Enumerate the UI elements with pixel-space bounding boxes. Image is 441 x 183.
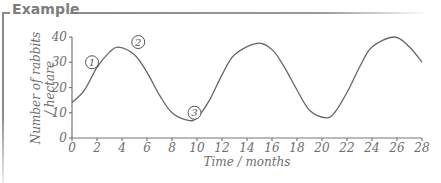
x-tick-label: 8 [168, 141, 176, 155]
annotation-marker: 1 [86, 56, 99, 69]
x-tick-label: 22 [338, 141, 354, 155]
x-axis-title: Time / months [203, 155, 290, 169]
population-curve [72, 37, 422, 121]
x-tick-label: 14 [239, 141, 254, 155]
x-tick-label: 16 [264, 141, 280, 155]
x-tick-label: 20 [313, 141, 330, 155]
x-tick-label: 18 [289, 141, 305, 155]
x-tick-label: 12 [214, 141, 229, 155]
rabbit-population-chart: 010203040 0246810121416182022242628 123 … [0, 0, 441, 183]
x-axis: 0246810121416182022242628 [68, 138, 430, 155]
x-tick-label: 0 [68, 141, 76, 155]
x-tick-label: 26 [388, 141, 405, 155]
svg-text:2: 2 [134, 37, 141, 48]
x-tick-label: 28 [413, 141, 430, 155]
y-axis-title-line2: / hectare [43, 61, 57, 116]
svg-text:3: 3 [191, 107, 197, 118]
y-tick-label: 40 [51, 30, 68, 44]
svg-text:1: 1 [89, 57, 95, 68]
y-tick-label: 0 [59, 131, 67, 145]
x-tick-label: 24 [363, 141, 379, 155]
annotations: 123 [86, 36, 202, 120]
x-tick-label: 10 [189, 141, 205, 155]
annotation-marker: 2 [132, 36, 145, 49]
annotation-marker: 3 [188, 106, 201, 119]
x-tick-label: 4 [117, 141, 126, 155]
x-tick-label: 6 [143, 141, 151, 155]
x-tick-label: 2 [92, 141, 101, 155]
y-axis-title-line1: Number of rabbits [29, 32, 43, 146]
